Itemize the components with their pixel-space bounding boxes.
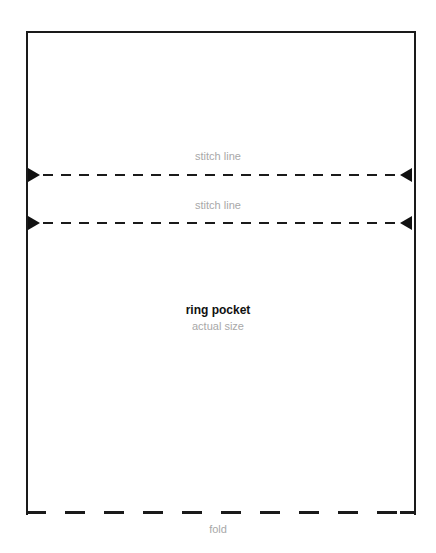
notch-triangle-left-icon [28,168,40,182]
fold-line [26,511,416,514]
stitch-line-1 [43,174,399,176]
pattern-outline [26,31,416,515]
stitch-line-2 [43,222,399,224]
fold-corner-left [26,511,42,514]
notch-triangle-right-icon [400,216,412,230]
notch-triangle-right-icon [400,168,412,182]
notch-triangle-left-icon [28,216,40,230]
stitch-line-label-1: stitch line [0,150,436,162]
fold-corner-right [400,511,416,514]
pattern-title: ring pocket [0,303,436,317]
stitch-line-label-2: stitch line [0,199,436,211]
fold-label: fold [0,523,436,535]
pattern-subtitle: actual size [0,320,436,332]
